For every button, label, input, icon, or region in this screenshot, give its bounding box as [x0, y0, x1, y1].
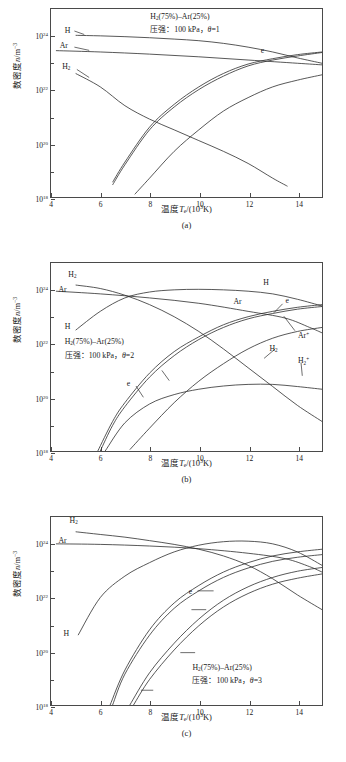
curve-label-h: H — [63, 629, 69, 638]
series-curve-Ar — [56, 51, 322, 65]
series-curve-H — [76, 35, 322, 63]
series-curve-Ar — [56, 544, 322, 572]
y-axis-title: 数密度n/m−3 — [10, 260, 22, 380]
chart-panel-c: 1018102010221024468101214H2ArHeH2(75%)–A… — [0, 508, 346, 762]
series-curve-Hp — [100, 307, 322, 451]
plot-area-b: 1018102010221024468101214H2ArHHAreeAr+H2… — [50, 262, 323, 452]
curve-label-h2: H2 — [62, 62, 70, 71]
label-leader-line — [284, 316, 295, 331]
annotation-conditions: 压强：100 kPa，θ=2 — [65, 350, 134, 361]
y-axis-tick-label: 1024 — [36, 286, 48, 295]
annotation-composition: H2(75%)–Ar(25%) — [150, 11, 219, 24]
label-leader-line — [74, 31, 84, 34]
series-curve-Arp — [130, 327, 322, 449]
x-axis-title: 温度Te/(103K) — [50, 710, 323, 722]
label-leader-line — [274, 304, 283, 313]
y-axis-tick-label: 1020 — [36, 394, 48, 403]
panel-annotation-c: H2(75%)–Ar(25%)压强：100 kPa，θ=3 — [192, 662, 261, 686]
panel-caption-b: (b) — [50, 474, 323, 484]
y-axis-title: 数密度n/m−3 — [10, 514, 22, 634]
curve-group-a — [51, 9, 322, 197]
series-curve-H — [78, 541, 322, 635]
annotation-conditions: 压强：100 kPa，θ=1 — [150, 24, 219, 35]
chart-panel-b: 1018102010221024468101214H2ArHHAreeAr+H2… — [0, 254, 346, 508]
panel-caption-a: (a) — [50, 220, 323, 230]
x-axis-title: 温度Te/(103K) — [50, 202, 323, 214]
curve-label-e: e — [261, 46, 264, 55]
curve-label-e: e — [286, 296, 289, 305]
annotation-composition: H2(75%)–Ar(25%) — [192, 662, 261, 675]
curve-label-ar: Ar — [58, 285, 66, 294]
label-leader-line — [74, 47, 89, 50]
y-axis-tick-label: 1020 — [36, 648, 48, 657]
y-axis-tick-label: 1024 — [36, 540, 48, 549]
curve-label-h2: H2 — [70, 516, 78, 525]
curve-group-c — [51, 517, 322, 705]
plot-area-c: 1018102010221024468101214H2ArHeH2(75%)–A… — [50, 516, 323, 706]
curve-label-arright: Ar — [233, 297, 241, 306]
annotation-conditions: 压强：100 kPa，θ=3 — [192, 675, 261, 686]
y-axis-tick-label: 1020 — [36, 140, 48, 149]
curve-label-h2p: H2+ — [298, 356, 309, 366]
y-axis-tick-label: 1018 — [36, 703, 48, 712]
y-axis-tick-label: 1022 — [36, 340, 48, 349]
series-curve-e — [113, 52, 322, 182]
curve-label-hright: H — [263, 278, 269, 287]
annotation-composition: H2(75%)–Ar(25%) — [65, 336, 134, 349]
curve-label-ar: Ar — [58, 536, 66, 545]
figure-root: 1018102010221024468101214HArH2eH2(75%)–A… — [0, 0, 346, 762]
curve-label-arpr: Ar+ — [298, 331, 309, 340]
label-leader-line — [77, 69, 89, 77]
curve-label-h2r: H2 — [269, 344, 277, 353]
curve-label-h: H — [65, 26, 71, 35]
y-axis-tick-label: 1018 — [36, 449, 48, 458]
series-curve-H2 — [76, 532, 322, 610]
curve-label-ar: Ar — [60, 41, 68, 50]
curve-label-eleft: e — [127, 379, 130, 388]
plot-area-a: 1018102010221024468101214HArH2eH2(75%)–A… — [50, 8, 323, 198]
series-curve-e — [98, 305, 322, 451]
y-axis-tick-label: 1024 — [36, 32, 48, 41]
series-curve-Hp — [113, 53, 322, 185]
chart-panel-a: 1018102010221024468101214HArH2eH2(75%)–A… — [0, 0, 346, 254]
curve-label-e: e — [189, 587, 192, 596]
series-curve-Arp — [135, 75, 322, 195]
y-axis-tick-label: 1022 — [36, 86, 48, 95]
x-axis-title: 温度Te/(103K) — [50, 456, 323, 468]
panel-annotation-a: H2(75%)–Ar(25%)压强：100 kPa，θ=1 — [150, 11, 219, 35]
curve-label-h2: H2 — [68, 270, 76, 279]
label-leader-line — [162, 370, 169, 380]
series-curve-H2 — [76, 73, 288, 186]
y-axis-tick-label: 1018 — [36, 195, 48, 204]
panel-caption-c: (c) — [50, 728, 323, 738]
panel-annotation-b: H2(75%)–Ar(25%)压强：100 kPa，θ=2 — [65, 336, 134, 360]
curve-label-h: H — [65, 322, 71, 331]
y-axis-title: 数密度n/m−3 — [10, 6, 22, 126]
y-axis-tick-label: 1022 — [36, 594, 48, 603]
